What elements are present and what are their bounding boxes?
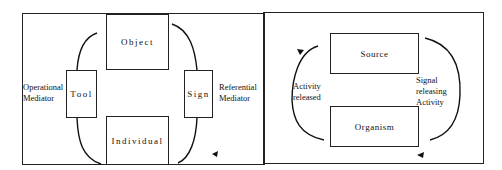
arrowhead-icon bbox=[212, 151, 218, 157]
arrowhead-icon bbox=[417, 152, 424, 158]
arrowhead-icon bbox=[297, 49, 304, 55]
source-box: Source bbox=[330, 33, 419, 74]
object-box: Object bbox=[106, 13, 169, 70]
sign-box: Sign bbox=[184, 70, 213, 118]
source-label: Source bbox=[361, 49, 389, 59]
organism-label: Organism bbox=[355, 122, 394, 132]
sign-label: Sign bbox=[187, 89, 210, 99]
organism-box: Organism bbox=[330, 106, 419, 147]
signal-releasing-activity-label: Signal releasing Activity bbox=[416, 75, 447, 108]
individual-label: Individual bbox=[112, 136, 164, 146]
tool-label: Tool bbox=[70, 89, 92, 99]
individual-box: Individual bbox=[106, 116, 169, 165]
operational-mediator-label: Operational Mediator bbox=[23, 82, 63, 104]
activity-released-label: Activity released bbox=[293, 81, 321, 103]
referential-mediator-label: Referential Mediator bbox=[219, 82, 257, 104]
object-label: Object bbox=[121, 37, 154, 47]
tool-box: Tool bbox=[66, 70, 97, 118]
